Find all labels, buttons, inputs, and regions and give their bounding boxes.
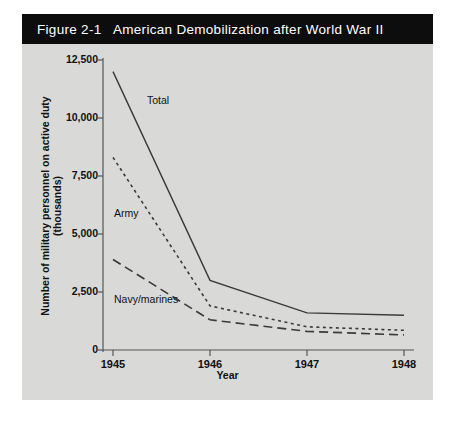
series-label-army: Army	[114, 207, 139, 219]
plot-area	[22, 44, 433, 400]
series-label-total: Total	[147, 94, 169, 106]
x-axis-title: Year	[22, 369, 433, 381]
series-line-total	[113, 72, 404, 316]
figure-title-text: Figure 2-1 American Demobilization after…	[22, 22, 384, 37]
series-label-navy-marines: Navy/marines	[114, 293, 178, 305]
chart-panel: Number of military personnel on active d…	[22, 44, 433, 400]
figure-container: Figure 2-1 American Demobilization after…	[0, 0, 455, 428]
figure-title-bar: Figure 2-1 American Demobilization after…	[22, 14, 433, 44]
